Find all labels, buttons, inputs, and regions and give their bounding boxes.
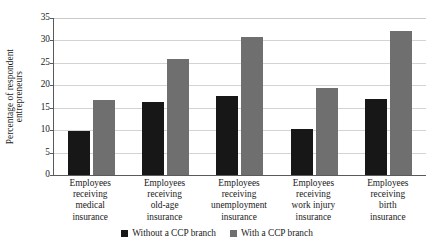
x-axis-category-label-line: receiving (202, 189, 276, 200)
bar-group (128, 18, 202, 175)
bar-group (277, 18, 351, 175)
legend-label: With a CCP branch (241, 229, 313, 238)
x-axis-category-label-line: Employees (276, 178, 350, 189)
x-axis-category-label-line: unemployment (202, 200, 276, 211)
x-axis-category-label: Employeesreceivingunemploymentinsurance (202, 178, 276, 223)
chart-legend: Without a CCP branchWith a CCP branch (0, 229, 434, 238)
x-axis-category-label-line: insurance (202, 212, 276, 223)
x-axis-category-label-line: insurance (53, 212, 127, 223)
bar (365, 99, 387, 175)
x-axis-category-label-line: birth (351, 200, 425, 211)
x-axis-category-label-line: medical (53, 200, 127, 211)
x-axis-category-label-line: receiving (127, 189, 201, 200)
plot-area (53, 18, 426, 176)
x-axis-category-label-line: Employees (53, 178, 127, 189)
y-axis-tick-label: 20 (28, 81, 50, 90)
bar (291, 129, 313, 175)
x-axis-category-label-line: Employees (127, 178, 201, 189)
x-axis-category-label-line: work injury (276, 200, 350, 211)
x-axis-category-label: Employeesreceivingwork injuryinsurance (276, 178, 350, 223)
x-axis-category-label-line: old-age (127, 200, 201, 211)
x-axis-category-label-line: insurance (351, 212, 425, 223)
bar (68, 131, 90, 175)
bar-group (352, 18, 426, 175)
x-axis-category-label-line: insurance (127, 212, 201, 223)
y-axis-title: Percentage of respondent entrepreneurs (0, 18, 30, 176)
y-axis-tickmark (50, 175, 54, 176)
y-axis-tick-label: 10 (28, 125, 50, 134)
y-axis-tick-label: 30 (28, 36, 50, 45)
bar (316, 88, 338, 175)
x-axis-category-label-line: receiving (351, 189, 425, 200)
y-axis-tick-label: 0 (28, 170, 50, 179)
x-axis-category-label-line: Employees (202, 178, 276, 189)
y-axis-title-line-2: entrepreneurs (15, 71, 24, 122)
bar-chart-figure: Percentage of respondent entrepreneurs 0… (0, 0, 434, 246)
x-axis-category-label-line: receiving (276, 189, 350, 200)
bar-group (54, 18, 128, 175)
bar (216, 96, 238, 175)
legend-entry[interactable]: With a CCP branch (230, 229, 313, 238)
legend-entry[interactable]: Without a CCP branch (121, 229, 216, 238)
x-axis-category-label: Employeesreceivingold-ageinsurance (127, 178, 201, 223)
filled-square-icon (230, 230, 237, 237)
y-axis-tick-label: 35 (28, 13, 50, 22)
bar (167, 59, 189, 175)
bar (142, 102, 164, 175)
filled-square-icon (121, 230, 128, 237)
y-axis-tick-label: 25 (28, 58, 50, 67)
bar (390, 31, 412, 175)
x-axis-category-label-line: receiving (53, 189, 127, 200)
x-axis-category-labels: EmployeesreceivingmedicalinsuranceEmploy… (53, 178, 425, 234)
bar (241, 37, 263, 175)
x-axis-category-label: Employeesreceivingmedicalinsurance (53, 178, 127, 223)
y-axis-tick-label: 15 (28, 103, 50, 112)
bar-group (203, 18, 277, 175)
x-axis-category-label-line: Employees (351, 178, 425, 189)
y-axis-tick-labels: 05101520253035 (28, 0, 50, 246)
x-axis-category-label-line: insurance (276, 212, 350, 223)
y-axis-tick-label: 5 (28, 148, 50, 157)
x-axis-category-label: Employeesreceivingbirthinsurance (351, 178, 425, 223)
bar (93, 100, 115, 175)
legend-label: Without a CCP branch (132, 229, 216, 238)
bars-layer (54, 18, 426, 175)
